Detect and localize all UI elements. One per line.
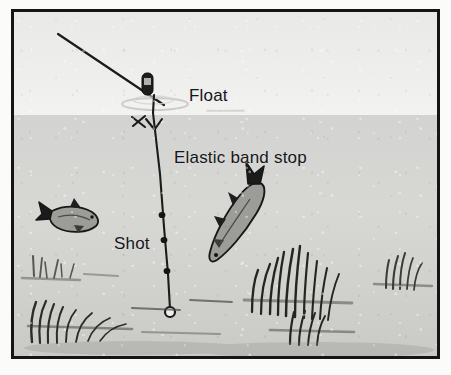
float (142, 73, 153, 95)
split-shot-3 (164, 268, 171, 274)
weed-clump-left-upper (22, 256, 118, 280)
split-shot-1 (159, 212, 166, 218)
label-elastic-band-stop: Elastic band stop (174, 148, 307, 168)
fish-small-left-dorsal (70, 198, 81, 208)
split-shot-2 (161, 237, 168, 243)
weed-clump-center (132, 300, 232, 334)
fish-large-right-eye (214, 253, 218, 257)
rig-artwork (14, 12, 437, 356)
weed-clump-right-main (244, 246, 354, 345)
underwater-scene (14, 12, 437, 356)
fish-large-right (209, 162, 264, 262)
weed-clump-left-lower (28, 301, 132, 343)
fish-small-left-tail (36, 202, 52, 220)
illustration-frame: Float Elastic band stop Shot (11, 9, 440, 359)
weed-clump-far-right (374, 253, 432, 290)
figure-container: Float Elastic band stop Shot (0, 0, 451, 375)
label-float: Float (189, 86, 228, 106)
fish-small-left-eye (90, 215, 93, 218)
elastic-band-stop (132, 116, 162, 129)
fish-small-left (36, 198, 98, 233)
lake-bed-shading (24, 341, 434, 358)
label-shot: Shot (114, 234, 150, 254)
